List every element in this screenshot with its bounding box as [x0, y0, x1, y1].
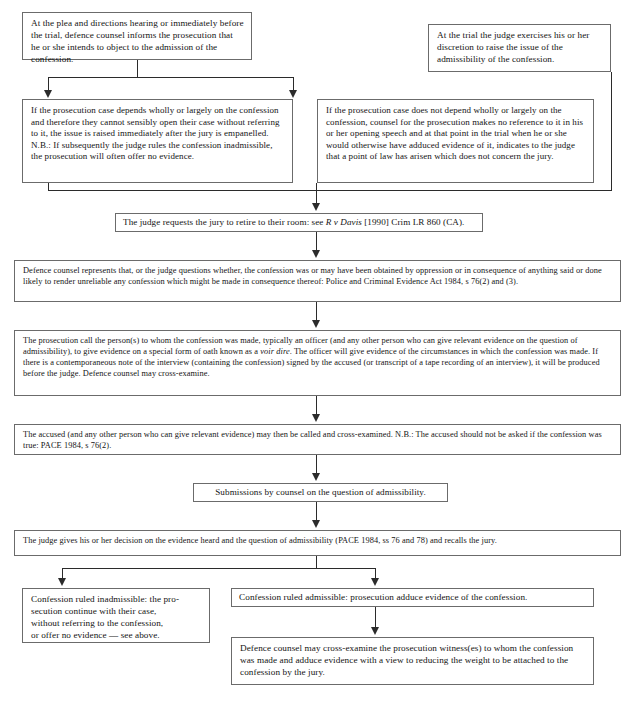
arrow-to-defence-cross-examine: [371, 627, 379, 635]
arrow-to-prosecution-call: [312, 320, 320, 328]
node-ruled-admissible-text: Confession ruled admissible: prosecution…: [232, 589, 593, 607]
arrow-to-jury-retire: [312, 203, 320, 211]
arrow-to-not-depends-wholly: [289, 90, 297, 98]
jury-retire-text-before: The judge requests the jury to retire to…: [123, 217, 326, 227]
node-defence-cross-examine-text: Defence counsel may cross-examine the pr…: [232, 638, 593, 684]
connector-plea-split-bar: [48, 77, 293, 78]
node-not-depends-wholly-text: If the prosecution case does not depend …: [318, 100, 593, 168]
connector-prosecution-to-accused: [316, 396, 317, 416]
arrow-to-defence-represents: [312, 250, 320, 258]
jury-retire-text-after: [1990] Crim LR 860 (CA).: [362, 217, 465, 227]
node-judge-decision-text: The judge gives his or her decision on t…: [15, 531, 620, 552]
connector-jury-to-defence: [316, 232, 317, 252]
node-at-trial: At the trial the judge exercises his or …: [428, 24, 611, 72]
node-ruled-inadmissible: Confession ruled inadmissible: the pro- …: [22, 588, 210, 643]
node-defence-represents-text: Defence counsel represents that, or the …: [15, 261, 620, 293]
node-plea-hearing-text: At the plea and directions hearing or im…: [23, 13, 251, 71]
arrow-to-accused-called: [312, 414, 320, 422]
flowchart-canvas: At the plea and directions hearing or im…: [0, 0, 635, 717]
node-jury-retire: The judge requests the jury to retire to…: [115, 213, 483, 232]
node-at-trial-text: At the trial the judge exercises his or …: [429, 25, 610, 71]
node-depends-wholly: If the prosecution case depends wholly o…: [22, 99, 293, 183]
connector-merge-stem: [316, 190, 317, 204]
node-depends-wholly-text: If the prosecution case depends wholly o…: [23, 100, 292, 168]
jury-retire-citation: R v Davis: [326, 217, 362, 227]
node-accused-called-text: The accused (and any other person who ca…: [15, 425, 620, 457]
connector-decision-split-bar: [62, 568, 375, 569]
arrow-to-submissions: [312, 473, 320, 481]
node-submissions-text: Submissions by counsel on the question o…: [194, 484, 447, 501]
arrow-to-ruled-admissible: [371, 578, 379, 586]
node-jury-retire-text: The judge requests the jury to retire to…: [116, 214, 482, 231]
node-defence-represents: Defence counsel represents that, or the …: [14, 260, 621, 302]
connector-admissible-to-cross-examine: [375, 607, 376, 629]
connector-accused-to-submissions: [316, 455, 317, 475]
arrow-to-depends-wholly: [44, 90, 52, 98]
connector-depends-wholly-down: [48, 183, 49, 190]
prosecution-call-term: voir dire: [260, 347, 289, 356]
connector-submissions-to-decision: [316, 502, 317, 522]
connector-at-trial-down: [611, 72, 612, 190]
connector-merge-bar: [48, 190, 612, 191]
node-ruled-inadmissible-text: Confession ruled inadmissible: the pro- …: [23, 589, 209, 647]
node-prosecution-call: The prosecution call the person(s) to wh…: [14, 330, 621, 396]
connector-decision-stem: [316, 556, 317, 568]
arrow-to-judge-decision: [312, 520, 320, 528]
node-defence-cross-examine: Defence counsel may cross-examine the pr…: [231, 637, 594, 685]
node-prosecution-call-text: The prosecution call the person(s) to wh…: [15, 331, 620, 384]
connector-not-depends-wholly-down: [316, 183, 317, 190]
node-accused-called: The accused (and any other person who ca…: [14, 424, 621, 455]
node-submissions: Submissions by counsel on the question o…: [193, 483, 448, 502]
node-plea-hearing: At the plea and directions hearing or im…: [22, 12, 252, 60]
arrow-to-ruled-inadmissible: [58, 578, 66, 586]
node-judge-decision: The judge gives his or her decision on t…: [14, 530, 621, 556]
node-not-depends-wholly: If the prosecution case does not depend …: [317, 99, 594, 183]
node-ruled-admissible: Confession ruled admissible: prosecution…: [231, 588, 594, 607]
connector-defence-to-prosecution: [316, 302, 317, 322]
